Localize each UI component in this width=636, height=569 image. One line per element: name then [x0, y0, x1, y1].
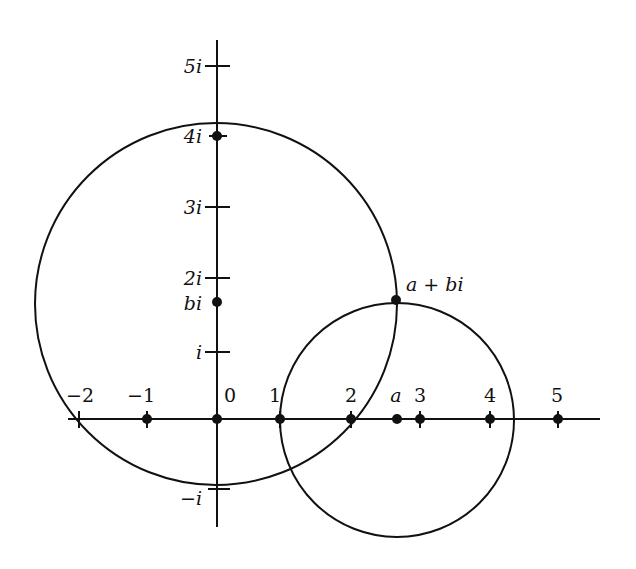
complex-plane-diagram: −2 −1 0 1 2 3 4 5 a 5i 4i 3i 2i bi i −i … [0, 0, 636, 569]
point-origin [212, 414, 222, 424]
label-a: a [390, 384, 401, 406]
label-4: 4 [484, 384, 496, 406]
label-minus-2: −2 [66, 384, 94, 406]
point-a [392, 414, 402, 424]
label-3: 3 [414, 384, 426, 406]
point-4i [212, 131, 222, 141]
point-a-plus-bi [391, 295, 401, 305]
real-axis-labels: −2 −1 0 1 2 3 4 5 a [66, 384, 563, 406]
label-3i: 3i [184, 196, 202, 218]
point-bi [212, 297, 222, 307]
point-2 [346, 414, 356, 424]
label-bi: bi [184, 292, 202, 314]
label-2i: 2i [183, 267, 202, 289]
label-1: 1 [269, 384, 281, 406]
label-minus-i: −i [180, 487, 202, 509]
label-minus-1: −1 [127, 384, 155, 406]
point-5 [553, 414, 563, 424]
label-a-plus-bi: a + bi [406, 273, 464, 295]
label-5: 5 [551, 384, 563, 406]
point-4 [485, 414, 495, 424]
label-4i: 4i [183, 125, 202, 147]
label-i: i [196, 341, 202, 363]
point-minus-1 [142, 414, 152, 424]
point-1 [275, 414, 285, 424]
label-5i: 5i [184, 55, 202, 77]
label-0: 0 [224, 384, 236, 406]
point-3 [415, 414, 425, 424]
label-2: 2 [345, 384, 357, 406]
